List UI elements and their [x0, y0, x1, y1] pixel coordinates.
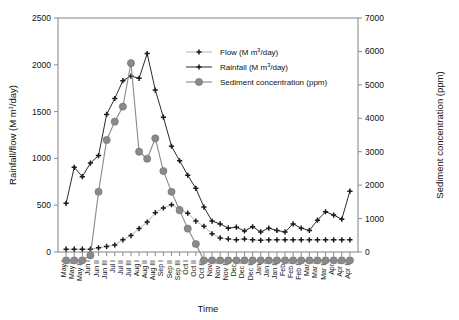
series-point-1 [193, 186, 198, 191]
series-point-0 [339, 237, 344, 242]
x-axis-tick-label: Sep III [174, 260, 182, 280]
series-point-1 [266, 226, 271, 231]
series-line-0 [66, 205, 350, 249]
series-point-0 [315, 237, 320, 242]
x-axis-tick-label: Aug III [149, 260, 157, 280]
series-point-1 [218, 221, 223, 226]
series-point-0 [120, 237, 125, 242]
series-point-1 [226, 226, 231, 231]
series-point-2 [103, 136, 110, 143]
series-point-2 [208, 257, 215, 264]
series-point-2 [241, 257, 248, 264]
series-point-0 [307, 237, 312, 242]
series-point-0 [323, 237, 328, 242]
x-axis-tick-label: Sep I [157, 260, 165, 276]
series-point-0 [299, 237, 304, 242]
series-point-2 [184, 225, 191, 232]
series-point-1 [177, 158, 182, 163]
series-point-2 [346, 257, 353, 264]
series-point-2 [71, 257, 78, 264]
legend-marker-0 [196, 49, 201, 54]
x-axis-tick-label: Aug II [141, 260, 149, 278]
right-axis-tick-label: 2000 [365, 180, 384, 190]
series-point-0 [282, 237, 287, 242]
series-point-1 [274, 228, 279, 233]
left-axis-tick-label: 500 [37, 200, 51, 210]
series-point-2 [298, 257, 305, 264]
x-axis-tick-label: Oct II [190, 260, 197, 277]
series-point-2 [176, 207, 183, 214]
left-axis-tick-label: 2000 [32, 60, 51, 70]
series-point-2 [265, 257, 272, 264]
x-axis-tick-label: Jun III [101, 260, 108, 279]
series-point-2 [192, 240, 199, 247]
series-point-1 [169, 144, 174, 149]
x-axis-tick-label: Jun II [93, 260, 100, 277]
series-point-0 [266, 237, 271, 242]
series-point-2 [281, 257, 288, 264]
series-point-1 [145, 51, 150, 56]
series-point-1 [347, 189, 352, 194]
series-point-0 [250, 237, 255, 242]
series-point-0 [274, 237, 279, 242]
series-point-1 [161, 115, 166, 120]
series-point-0 [226, 236, 231, 241]
series-point-1 [250, 224, 255, 229]
chart-figure: 0500100015002000250001000200030004000500… [0, 0, 459, 320]
series-point-0 [258, 238, 263, 243]
series-point-2 [217, 257, 224, 264]
right-axis-tick-label: 7000 [365, 13, 384, 23]
series-point-2 [225, 257, 232, 264]
series-point-0 [161, 205, 166, 210]
x-axis-tick-label: Jul III [125, 260, 132, 277]
series-point-2 [314, 257, 321, 264]
legend-label-1: Rainfall (M m3/day) [220, 62, 288, 72]
series-point-2 [79, 257, 86, 264]
right-axis-tick-label: 4000 [365, 113, 384, 123]
right-axis-tick-label: 0 [365, 247, 370, 257]
series-point-0 [234, 237, 239, 242]
series-point-2 [127, 60, 134, 67]
left-axis-tick-label: 2500 [32, 13, 51, 23]
series-point-1 [242, 228, 247, 233]
series-point-2 [322, 257, 329, 264]
series-point-0 [64, 247, 69, 252]
series-point-0 [96, 245, 101, 250]
legend-label-2: Sediment concentration (ppm) [220, 78, 328, 87]
series-point-1 [104, 112, 109, 117]
left-axis-tick-label: 1500 [32, 107, 51, 117]
series-point-0 [242, 236, 247, 241]
series-point-2 [168, 188, 175, 195]
x-axis-tick-label: Aug I [133, 260, 141, 276]
series-point-1 [112, 96, 117, 101]
series-point-2 [87, 252, 94, 259]
series-point-1 [331, 212, 336, 217]
series-point-1 [185, 173, 190, 178]
series-point-1 [299, 226, 304, 231]
legend-marker-2 [195, 78, 202, 85]
series-point-2 [249, 257, 256, 264]
series-point-0 [112, 242, 117, 247]
series-point-2 [200, 257, 207, 264]
legend-marker-1 [196, 64, 201, 69]
series-point-2 [233, 257, 240, 264]
series-point-0 [291, 237, 296, 242]
series-point-0 [347, 237, 352, 242]
series-point-1 [234, 225, 239, 230]
series-point-1 [209, 219, 214, 224]
left-axis-tick-label: 1000 [32, 153, 51, 163]
series-point-2 [144, 155, 151, 162]
series-point-1 [120, 78, 125, 83]
x-axis-tick-label: Oct I [182, 260, 189, 275]
series-point-2 [330, 257, 337, 264]
right-axis-tick-label: 1000 [365, 214, 384, 224]
series-point-2 [95, 188, 102, 195]
series-point-1 [201, 204, 206, 209]
series-point-1 [64, 201, 69, 206]
right-axis-title: Sediment concentration (ppm) [434, 71, 445, 198]
series-point-2 [119, 103, 126, 110]
left-axis-tick-label: 0 [46, 247, 51, 257]
series-point-2 [273, 257, 280, 264]
series-point-1 [153, 87, 158, 92]
rainfall-flow-sediment-chart: 0500100015002000250001000200030004000500… [0, 0, 459, 320]
